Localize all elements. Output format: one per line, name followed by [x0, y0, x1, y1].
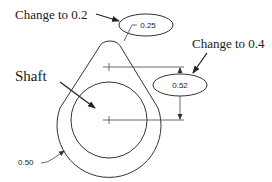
- dim-top-radius: 0.25: [140, 21, 156, 30]
- drawing-svg: 0.52 0.25 Change to 0.2 Change to 0.4 Sh…: [0, 0, 272, 182]
- label-shaft: Shaft: [15, 68, 47, 84]
- callout-top: Change to 0.2: [15, 7, 88, 22]
- callout-right-arrow: [193, 53, 207, 73]
- dim-outer-radius: 0.50: [18, 158, 34, 167]
- shaft-arrow: [60, 82, 95, 108]
- callout-top-arrow: [96, 14, 119, 21]
- callout-right: Change to 0.4: [192, 36, 265, 51]
- shaft-cam-drawing: 0.52 0.25 Change to 0.2 Change to 0.4 Sh…: [0, 0, 272, 182]
- dim-center-distance: 0.52: [172, 81, 188, 90]
- dim-025-leader: [124, 25, 137, 41]
- dim-050-leader: [41, 151, 64, 163]
